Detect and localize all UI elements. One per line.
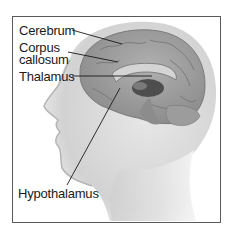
label-cerebrum: Cerebrum [19,24,75,37]
label-callosum: callosum [19,53,69,66]
label-hypothalamus: Hypothalamus [18,187,99,200]
label-thalamus: Thalamus [19,70,74,83]
